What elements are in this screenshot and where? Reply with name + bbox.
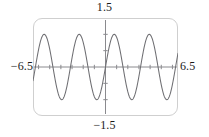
x-min-label: −6.5 [0,60,34,73]
x-max-label: 6.5 [179,60,209,73]
plot-area [33,18,178,116]
y-max-label: 1.5 [0,1,209,14]
y-min-label: −1.5 [0,119,209,132]
figure-container: 1.5 −1.5 −6.5 6.5 [0,0,209,137]
